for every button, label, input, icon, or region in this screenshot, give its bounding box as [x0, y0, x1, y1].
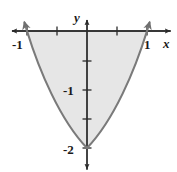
- parabola-figure: -1 1 -1 -2 y x: [0, 0, 177, 172]
- coordinate-plane-svg: -1 1 -1 -2 y x: [0, 0, 177, 172]
- y-tick-label-neg2: -2: [63, 142, 74, 157]
- x-tick-label-neg1: -1: [12, 37, 23, 52]
- x-axis-label: x: [162, 36, 170, 51]
- x-tick-label-pos1: 1: [144, 37, 151, 52]
- y-axis-label: y: [72, 10, 80, 25]
- y-tick-label-neg1: -1: [63, 83, 74, 98]
